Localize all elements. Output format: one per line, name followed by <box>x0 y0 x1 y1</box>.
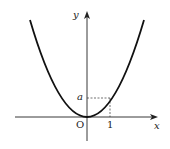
y-axis-label: y <box>73 10 79 20</box>
parabola-figure: y x O 1 a <box>0 0 170 149</box>
origin-label: O <box>76 120 84 130</box>
x-axis-label: x <box>154 121 160 131</box>
graph-svg <box>0 0 170 149</box>
y-tick-label-a: a <box>77 92 83 102</box>
x-tick-label-1: 1 <box>107 120 113 130</box>
